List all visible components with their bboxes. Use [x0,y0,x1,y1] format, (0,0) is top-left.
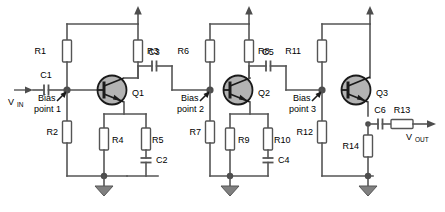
input-label-sub: IN [17,101,24,108]
transistor-Q1-label: Q1 [132,88,144,98]
supply-arrow-3 [366,6,374,15]
capacitor-C2-label: C2 [156,155,168,165]
resistor-R10-body [264,128,273,150]
capacitor-C3: C3 [138,47,210,90]
resistor-R1-label: R1 [34,46,46,56]
capacitor-C6-label: C6 [374,105,386,115]
resistor-R13-body [391,120,413,129]
output-label: V [406,132,412,142]
supply-rail-2 [210,6,253,40]
bias-point-2-line2: point 2 [177,104,204,114]
capacitor-C3-label: C3 [148,47,160,57]
resistor-R1: R1 [34,40,71,90]
resistor-R2-label: R2 [46,127,58,137]
resistor-R10-label: R10 [274,135,291,145]
resistor-R14-label: R14 [342,141,359,151]
resistor-R11: R11 [285,40,326,90]
bias-point-3-line1: Bias [293,93,311,103]
transistor-Q2-label: Q2 [258,88,270,98]
supply-rail-3 [322,6,374,78]
supply-arrow-1 [134,6,142,15]
bias-point-1-line1: Bias [38,93,56,103]
capacitor-C1: C1 [33,70,67,96]
resistor-R12-label: R12 [296,127,313,137]
bias-point-3-line2: point 3 [289,104,316,114]
input-arrow-icon [25,86,33,93]
emitter-network-1: R4 R5 C2 [100,114,168,179]
input-label: V [8,97,14,107]
resistor-R5-label: R5 [152,135,164,145]
bias-point-1-line2: point 1 [34,104,61,114]
supply-arrow-2 [245,6,253,15]
capacitor-C1-label: C1 [40,70,52,80]
ground-2 [221,176,239,196]
resistor-R6: R6 [177,40,214,90]
circuit-schematic: R1 R3 V IN C1 Bias point 1 R2 [0,0,445,212]
resistor-R4-body [100,128,109,150]
bias-point-2-line1: Bias [181,93,199,103]
resistor-R11-label: R11 [285,46,301,56]
ground-1 [95,176,113,196]
output-arrow-icon [427,120,436,128]
resistor-R7-label: R7 [189,127,201,137]
resistor-R4-label: R4 [112,135,124,145]
output-network: C6 R13 V OUT [365,105,436,143]
output-label-sub: OUT [415,136,429,143]
resistor-R9-label: R9 [238,135,250,145]
resistor-R6-label: R6 [177,46,189,56]
transistor-Q3-label: Q3 [376,88,388,98]
ground-3 [359,186,377,196]
resistor-R5-body [142,128,151,150]
input-port: V IN [8,86,33,108]
capacitor-C4-label: C4 [278,155,290,165]
transistor-Q1: Q1 [98,76,145,115]
capacitor-C5-label: C5 [262,47,274,57]
resistor-R9-body [226,128,235,150]
resistor-R13-label: R13 [394,105,411,115]
emitter-network-2: R9 R10 C4 [226,114,291,179]
supply-rail-1 [67,6,142,40]
transistor-Q2: Q2 [224,76,271,115]
